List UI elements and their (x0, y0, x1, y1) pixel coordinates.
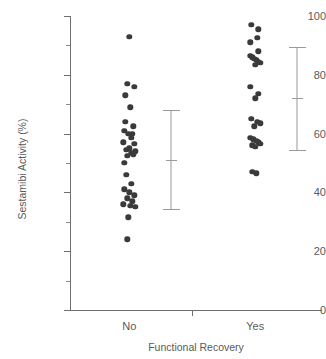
y-tick-major (64, 192, 70, 193)
data-point (249, 116, 254, 121)
y-tick-label: 40 (266, 187, 326, 198)
y-tick-minor (66, 45, 70, 46)
x-tick-divider (192, 310, 193, 316)
y-axis-line (70, 16, 71, 311)
data-point (132, 193, 137, 198)
data-point (126, 215, 131, 220)
data-point (253, 62, 258, 67)
data-point (255, 35, 260, 40)
y-tick-major (64, 310, 70, 311)
y-tick-major (64, 16, 70, 17)
data-point (252, 124, 257, 129)
data-point (132, 141, 137, 146)
data-point (123, 93, 128, 98)
data-point (248, 40, 253, 45)
x-axis-title: Functional Recovery (70, 341, 322, 353)
data-point (258, 121, 263, 126)
data-point (125, 237, 130, 242)
data-point (253, 144, 258, 149)
data-point (123, 119, 128, 124)
y-tick-minor (66, 281, 70, 282)
data-point (121, 201, 126, 206)
data-point (256, 49, 261, 54)
data-point (122, 160, 127, 165)
y-tick-major (64, 134, 70, 135)
data-point (258, 60, 263, 65)
data-point (254, 171, 259, 176)
data-point (133, 204, 138, 209)
data-point (131, 124, 136, 129)
x-tick-label-no: No (89, 320, 169, 333)
y-tick-minor (66, 104, 70, 105)
error-bar-mean-marker (292, 98, 303, 99)
data-point (131, 151, 136, 156)
y-tick-minor (66, 163, 70, 164)
data-point (125, 153, 130, 158)
data-point (248, 84, 253, 89)
error-bar-cap-upper (163, 110, 180, 111)
data-point (129, 135, 134, 140)
y-tick-major (64, 75, 70, 76)
data-point (258, 141, 263, 146)
data-point (128, 104, 133, 109)
y-tick-label: 20 (266, 246, 326, 257)
y-tick-minor (66, 222, 70, 223)
y-tick-major (64, 251, 70, 252)
data-point (129, 181, 134, 186)
data-point (124, 172, 129, 177)
data-point (132, 84, 137, 89)
data-point (253, 96, 258, 101)
y-tick-label: 0 (266, 305, 326, 316)
error-bar-cap-lower (163, 209, 180, 210)
data-point (125, 81, 130, 86)
error-bar-cap-lower (289, 150, 306, 151)
chart-figure: 020406080100 NoYes Sestamibi Activity (%… (0, 0, 326, 359)
x-tick-label-yes: Yes (215, 320, 295, 333)
data-point (127, 34, 132, 39)
error-bar-cap-upper (289, 47, 306, 48)
data-point (121, 140, 126, 145)
plot-area: 020406080100 NoYes Sestamibi Activity (%… (0, 0, 326, 359)
data-point (249, 22, 254, 27)
y-tick-label: 100 (266, 11, 326, 22)
y-axis-title: Sestamibi Activity (%) (16, 84, 28, 254)
error-bar-mean-marker (166, 160, 177, 161)
data-point (256, 27, 261, 32)
